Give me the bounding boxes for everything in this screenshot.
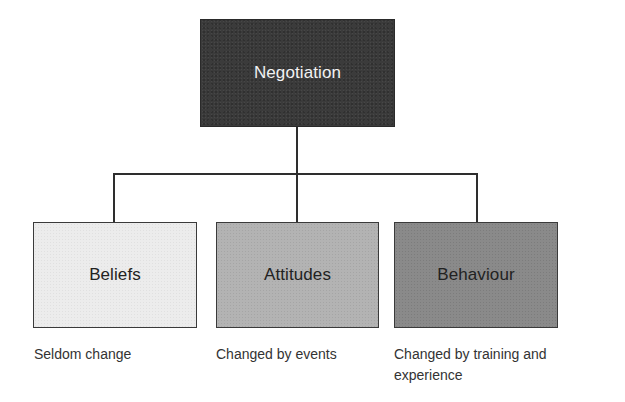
node-beliefs-label: Beliefs (89, 265, 141, 285)
connector-to-behaviour (476, 173, 478, 223)
negotiation-hierarchy-diagram: Negotiation Beliefs Attitudes Behaviour … (0, 0, 625, 402)
node-behaviour: Behaviour (394, 222, 558, 328)
connector-root-stem (296, 127, 298, 175)
connector-to-beliefs (113, 173, 115, 223)
caption-attitudes: Changed by events (216, 344, 391, 365)
caption-beliefs: Seldom change (34, 344, 204, 365)
node-negotiation: Negotiation (200, 19, 395, 127)
connector-to-attitudes (296, 173, 298, 223)
caption-behaviour: Changed by training and experience (394, 344, 569, 386)
node-behaviour-label: Behaviour (437, 265, 514, 285)
node-negotiation-label: Negotiation (254, 63, 341, 83)
node-beliefs: Beliefs (33, 222, 197, 328)
node-attitudes: Attitudes (216, 222, 379, 328)
node-attitudes-label: Attitudes (264, 265, 331, 285)
